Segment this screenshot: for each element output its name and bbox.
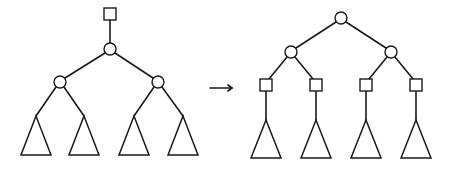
left-tree-circle-nodes — [54, 43, 164, 88]
tree-edge — [36, 87, 56, 116]
square-node — [360, 79, 372, 91]
subtree-triangle-icon — [251, 120, 281, 158]
subtree-triangle-icon — [69, 116, 99, 155]
tree-edge — [295, 57, 313, 79]
tree-edge — [115, 53, 153, 78]
tree-edge — [296, 22, 336, 48]
left-tree-edges — [36, 20, 183, 116]
circle-node — [54, 76, 66, 88]
circle-node — [104, 43, 116, 55]
square-node — [260, 79, 272, 91]
tree-edge — [65, 53, 105, 78]
subtree-triangle-icon — [351, 120, 381, 158]
tree-edge — [64, 87, 84, 116]
subtree-triangle-icon — [21, 116, 51, 155]
tree-edge — [369, 57, 387, 79]
tree-edge — [269, 57, 287, 79]
tree-edge — [162, 87, 183, 116]
subtree-triangle-icon — [401, 120, 431, 158]
subtree-triangle-icon — [168, 116, 198, 155]
square-node — [310, 79, 322, 91]
transformation-arrow-icon — [210, 85, 232, 91]
right-tree-subtrees — [251, 120, 431, 158]
left-tree — [21, 8, 198, 155]
circle-node — [385, 46, 397, 58]
tree-transformation-diagram — [0, 0, 450, 169]
subtree-triangle-icon — [301, 120, 331, 158]
circle-node — [152, 76, 164, 88]
right-tree-square-nodes — [260, 79, 422, 91]
square-node — [104, 8, 116, 20]
right-tree — [251, 12, 431, 158]
tree-edge — [134, 87, 154, 116]
square-node — [410, 79, 422, 91]
left-tree-square-nodes — [104, 8, 116, 20]
right-tree-edges — [266, 22, 416, 120]
tree-edge — [395, 57, 413, 79]
subtree-triangle-icon — [119, 116, 149, 155]
left-tree-subtrees — [21, 116, 198, 155]
circle-node — [285, 46, 297, 58]
right-tree-circle-nodes — [285, 12, 397, 58]
circle-node — [335, 12, 347, 24]
tree-edge — [346, 22, 386, 48]
